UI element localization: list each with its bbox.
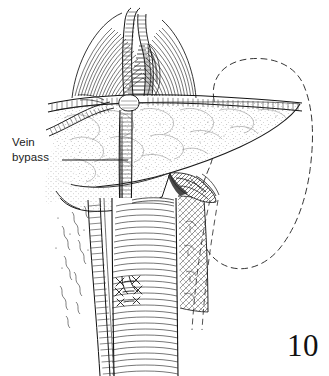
figure-illustration: Vein bypass 10 xyxy=(0,0,329,376)
label-vein-bypass-line1: Vein xyxy=(12,135,49,150)
retroperitoneal-tissue xyxy=(178,196,208,312)
label-vein-bypass-line2: bypass xyxy=(12,150,49,165)
surgical-illustration-canvas xyxy=(0,0,329,376)
figure-number: 10 xyxy=(287,328,319,364)
label-vein-bypass: Vein bypass xyxy=(12,135,49,164)
